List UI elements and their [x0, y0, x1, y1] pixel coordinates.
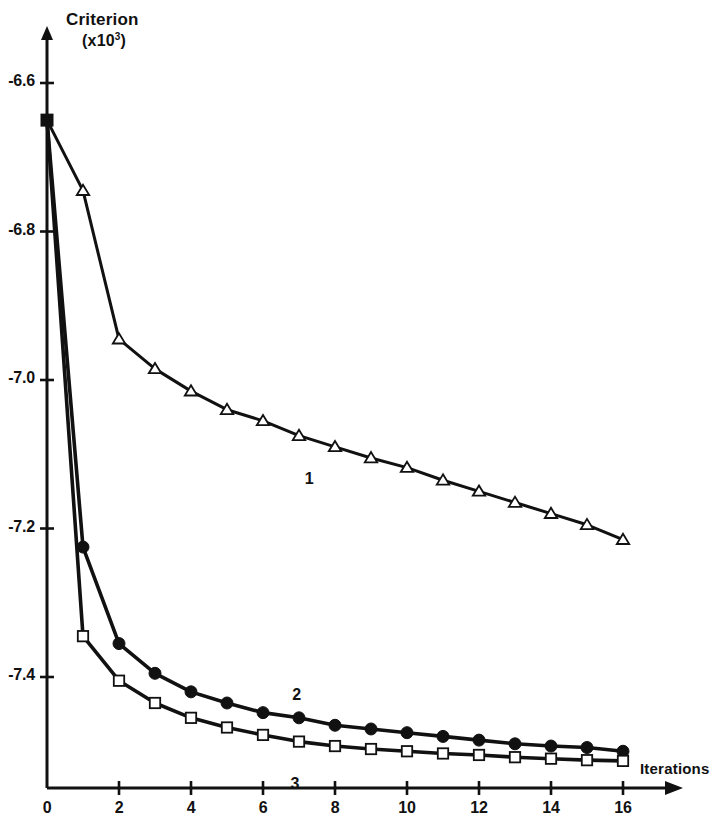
- x-tick-label: 10: [382, 799, 432, 817]
- data-point-marker: [258, 730, 268, 740]
- data-point-marker: [294, 736, 304, 746]
- data-point-marker: [222, 722, 232, 732]
- data-point-marker: [581, 742, 593, 754]
- data-point-marker: [509, 738, 521, 750]
- data-point-marker: [618, 756, 628, 766]
- y-axis-arrowhead: [41, 26, 53, 40]
- x-tick-label: 0: [22, 799, 72, 817]
- x-tick-label: 6: [238, 799, 288, 817]
- data-point-marker: [545, 740, 557, 752]
- y-axis-unit-label: (x103): [82, 31, 126, 50]
- series-line: [47, 120, 623, 540]
- y-axis-title: Criterion: [66, 10, 139, 30]
- x-tick-label: 2: [94, 799, 144, 817]
- series-label-3: 3: [290, 775, 299, 793]
- data-point-marker: [473, 734, 485, 746]
- data-point-marker: [150, 698, 160, 708]
- x-tick-label: 8: [310, 799, 360, 817]
- data-point-marker: [330, 741, 340, 751]
- series-label-2: 2: [292, 686, 301, 704]
- data-point-marker: [77, 185, 89, 195]
- data-point-marker: [474, 750, 484, 760]
- data-point-marker: [185, 686, 197, 698]
- x-tick-label: 16: [598, 799, 648, 817]
- series-3: [47, 120, 628, 766]
- data-point-marker: [402, 746, 412, 756]
- y-tick-label: -7.4: [0, 666, 35, 684]
- data-point-marker: [401, 727, 413, 739]
- data-series-group: [41, 114, 630, 766]
- start-point-marker: [41, 114, 54, 127]
- chart-figure: Criterion (x103) Iterations -6.6-6.8-7.0…: [0, 0, 723, 826]
- x-axis-arrowhead: [665, 781, 683, 795]
- y-tick-label: -6.8: [0, 221, 35, 239]
- series-label-1: 1: [305, 470, 314, 488]
- x-tick-label: 12: [454, 799, 504, 817]
- data-point-marker: [510, 752, 520, 762]
- y-tick-label: -6.6: [0, 72, 35, 90]
- data-point-marker: [293, 712, 305, 724]
- x-axis-title: Iterations: [640, 760, 710, 777]
- data-point-marker: [329, 719, 341, 731]
- data-point-marker: [438, 748, 448, 758]
- x-tick-label: 14: [526, 799, 576, 817]
- data-point-marker: [366, 744, 376, 754]
- data-point-marker: [546, 753, 556, 763]
- data-point-marker: [113, 638, 125, 650]
- tick-marks-group: [40, 83, 623, 795]
- data-point-marker: [186, 713, 196, 723]
- data-point-marker: [582, 755, 592, 765]
- data-point-marker: [257, 707, 269, 719]
- y-axis-unit-prefix: (x10: [82, 32, 115, 49]
- series-1: [47, 120, 629, 544]
- y-axis-unit-suffix: ): [121, 32, 127, 49]
- data-point-marker: [365, 723, 377, 735]
- series-2: [47, 120, 629, 757]
- series-line: [47, 120, 623, 751]
- data-point-marker: [221, 697, 233, 709]
- data-point-marker: [113, 333, 125, 343]
- data-point-marker: [437, 730, 449, 742]
- data-point-marker: [149, 667, 161, 679]
- x-tick-label: 4: [166, 799, 216, 817]
- y-tick-label: -7.2: [0, 518, 35, 536]
- data-point-marker: [78, 631, 88, 641]
- chart-plot-area: [0, 0, 723, 826]
- data-point-marker: [114, 676, 124, 686]
- y-tick-label: -7.0: [0, 369, 35, 387]
- axes-group: [41, 26, 683, 795]
